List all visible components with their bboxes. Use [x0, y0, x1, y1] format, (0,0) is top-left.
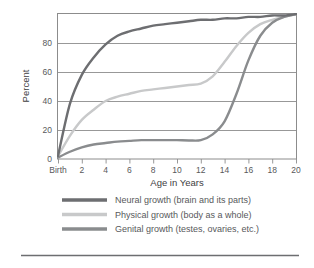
y-tick-label: 80 — [43, 38, 53, 48]
x-tick-label: Birth — [49, 165, 67, 175]
y-axis-ticklabels: 020406080 — [43, 38, 53, 164]
legend-item: Physical growth (body as a whole) — [62, 210, 252, 220]
legend-item: Genital growth (testes, ovaries, etc.) — [62, 224, 259, 234]
chart-canvas: 020406080 Birth2468101214161820 Percent … — [0, 0, 314, 268]
y-tick-label: 0 — [47, 154, 52, 164]
legend-label: Genital growth (testes, ovaries, etc.) — [115, 224, 259, 234]
data-series-group — [58, 14, 296, 158]
x-axis-title: Age in Years — [150, 177, 204, 188]
legend-item: Neural growth (brain and its parts) — [62, 195, 251, 205]
x-tick-label: 6 — [127, 165, 132, 175]
y-tick-label: 40 — [43, 96, 53, 106]
x-tick-label: 16 — [244, 165, 254, 175]
y-tick-label: 60 — [43, 67, 53, 77]
x-tick-label: 20 — [291, 165, 301, 175]
x-tick-label: 4 — [103, 165, 108, 175]
x-axis-ticks — [59, 159, 297, 164]
legend: Neural growth (brain and its parts)Physi… — [62, 195, 259, 234]
x-tick-label: 8 — [151, 165, 156, 175]
x-tick-label: 14 — [220, 165, 230, 175]
x-tick-label: 10 — [172, 165, 182, 175]
x-tick-label: 18 — [267, 165, 277, 175]
x-axis-ticklabels: Birth2468101214161820 — [49, 165, 301, 175]
growth-curves-figure: 020406080 Birth2468101214161820 Percent … — [0, 0, 314, 268]
x-tick-label: 12 — [196, 165, 206, 175]
y-tick-label: 20 — [43, 125, 53, 135]
legend-label: Physical growth (body as a whole) — [115, 210, 252, 220]
legend-label: Neural growth (brain and its parts) — [115, 195, 251, 205]
y-axis-title: Percent — [20, 69, 31, 102]
x-tick-label: 2 — [79, 165, 84, 175]
